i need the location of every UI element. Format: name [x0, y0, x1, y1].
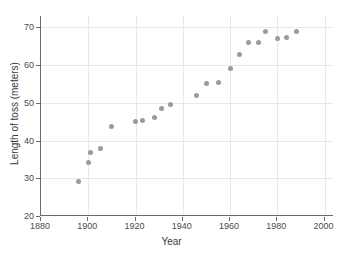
data-point: [256, 40, 261, 45]
data-point: [275, 36, 280, 41]
y-axis-tick-mark: [36, 216, 40, 217]
y-axis-tick-label: 50: [14, 98, 34, 108]
x-axis-tick-label: 1940: [172, 221, 192, 231]
y-axis-tick-mark: [36, 103, 40, 104]
x-axis-tick-label: 1920: [125, 221, 145, 231]
gridline-horizontal: [41, 27, 333, 28]
gridline-horizontal: [41, 103, 333, 104]
x-axis-tick-label: 1880: [30, 221, 50, 231]
data-point: [237, 52, 242, 57]
gridline-vertical: [230, 16, 231, 215]
gridline-horizontal: [41, 178, 333, 179]
x-axis-tick-label: 1900: [77, 221, 97, 231]
data-point: [228, 66, 233, 71]
gridline-vertical: [277, 16, 278, 215]
y-axis-tick-mark: [36, 141, 40, 142]
scatter-chart-figure: Length of toss (meters) Year 18801900192…: [0, 0, 343, 256]
data-point: [109, 124, 114, 129]
gridline-vertical: [136, 16, 137, 215]
data-point: [294, 29, 299, 34]
y-axis-tick-mark: [36, 27, 40, 28]
y-axis-tick-label: 30: [14, 173, 34, 183]
data-point: [140, 118, 145, 123]
data-point: [216, 80, 221, 85]
data-point: [86, 160, 91, 165]
data-point: [246, 40, 251, 45]
data-point: [152, 115, 157, 120]
data-point: [98, 146, 103, 151]
data-point: [204, 81, 209, 86]
data-point: [194, 93, 199, 98]
gridline-vertical: [88, 16, 89, 215]
x-axis-tick-label: 1980: [266, 221, 286, 231]
gridline-vertical: [325, 16, 326, 215]
y-axis-tick-mark: [36, 178, 40, 179]
data-point: [133, 119, 138, 124]
data-point: [76, 179, 81, 184]
gridline-horizontal: [41, 141, 333, 142]
y-axis-tick-label: 60: [14, 60, 34, 70]
data-point: [168, 102, 173, 107]
gridline-horizontal: [41, 65, 333, 66]
data-point: [88, 150, 93, 155]
y-axis-tick-label: 40: [14, 136, 34, 146]
data-point: [284, 35, 289, 40]
x-axis-tick-label: 2000: [314, 221, 334, 231]
x-axis-tick-label: 1960: [219, 221, 239, 231]
data-point: [159, 106, 164, 111]
y-axis-tick-label: 70: [14, 22, 34, 32]
x-axis-title: Year: [0, 236, 343, 247]
plot-area: [40, 16, 333, 216]
y-axis-tick-mark: [36, 65, 40, 66]
y-axis-tick-label: 20: [14, 211, 34, 221]
data-point: [263, 29, 268, 34]
gridline-vertical: [183, 16, 184, 215]
